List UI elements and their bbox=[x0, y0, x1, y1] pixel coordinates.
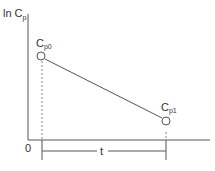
log-concentration-diagram: ln Cp 0 Cp0 Cp1 t bbox=[0, 0, 215, 171]
label-cp1: Cp1 bbox=[161, 101, 177, 115]
label-cp0: Cp0 bbox=[36, 37, 52, 51]
interval-label: t bbox=[100, 145, 103, 157]
origin-label: 0 bbox=[25, 142, 31, 154]
point-cp1 bbox=[162, 117, 170, 125]
y-axis-label: ln Cp bbox=[3, 7, 27, 22]
point-cp0 bbox=[37, 52, 45, 60]
decay-line bbox=[45, 59, 162, 118]
